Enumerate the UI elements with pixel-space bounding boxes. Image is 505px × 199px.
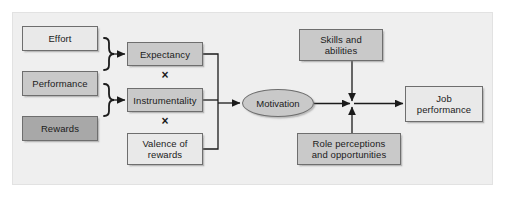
input-label-rewards: Rewards <box>41 123 79 134</box>
component-label-expectancy: Expectancy <box>140 49 190 60</box>
multiplication-operator-1: × <box>158 68 172 82</box>
motivation-node[interactable]: Motivation <box>242 89 314 117</box>
moderator-box-skills[interactable]: Skills and abilities <box>299 29 383 61</box>
multiplication-operator-2: × <box>158 114 172 128</box>
moderator-label-skills: Skills and abilities <box>320 34 362 56</box>
component-box-expectancy[interactable]: Expectancy <box>127 42 203 66</box>
input-label-effort: Effort <box>48 33 71 44</box>
component-label-valence: Valence of rewards <box>142 138 187 160</box>
moderator-box-role-perceptions[interactable]: Role perceptions and opportunities <box>297 133 401 165</box>
outcome-box-job-performance[interactable]: Job performance <box>405 86 483 122</box>
diagram-canvas: Effort Performance Rewards Expectancy × … <box>0 0 505 199</box>
outcome-label-job-performance: Job performance <box>417 93 471 115</box>
component-box-valence[interactable]: Valence of rewards <box>127 133 203 165</box>
motivation-label: Motivation <box>256 98 299 109</box>
input-label-performance: Performance <box>32 78 87 89</box>
input-box-rewards[interactable]: Rewards <box>22 116 98 141</box>
input-box-performance[interactable]: Performance <box>22 71 98 96</box>
input-box-effort[interactable]: Effort <box>22 26 98 51</box>
component-label-instrumentality: Instrumentality <box>133 95 196 106</box>
component-box-instrumentality[interactable]: Instrumentality <box>127 88 203 112</box>
moderator-label-role-perceptions: Role perceptions and opportunities <box>312 138 387 160</box>
